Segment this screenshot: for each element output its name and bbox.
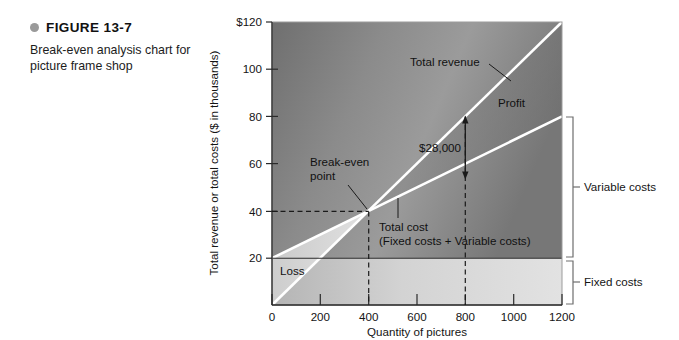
breakeven-label-line-2: point xyxy=(310,169,336,182)
y-tick-label-120: $120 xyxy=(236,15,262,28)
x-tick-label-600: 600 xyxy=(407,310,426,323)
x-tick-label-1200: 1200 xyxy=(549,310,575,323)
x-tick-label-400: 400 xyxy=(359,310,378,323)
fixed-costs-label: Fixed costs xyxy=(584,275,643,288)
y-tick-label-100: 100 xyxy=(243,62,262,75)
x-tick-label-200: 200 xyxy=(311,310,330,323)
total-cost-label-line-2: (Fixed costs + Variable costs) xyxy=(379,234,531,247)
total-cost-label-line-1: Total cost xyxy=(379,220,429,233)
break-even-chart: $120 100 80 60 40 20 0 200 400 600 800 1… xyxy=(0,0,679,340)
variable-costs-label: Variable costs xyxy=(584,180,656,193)
y-tick-label-80: 80 xyxy=(249,110,262,123)
chart-canvas: $120 100 80 60 40 20 0 200 400 600 800 1… xyxy=(0,0,679,340)
y-axis-title: Total revenue or total costs ($ in thous… xyxy=(207,50,220,275)
loss-label: Loss xyxy=(280,264,305,277)
profit-measure-label: $28,000 xyxy=(419,141,461,154)
breakeven-label-line-1: Break-even xyxy=(310,155,369,168)
y-tick-label-60: 60 xyxy=(249,157,262,170)
variable-costs-bracket xyxy=(566,117,580,257)
variable-costs-bracket-shape xyxy=(566,117,573,257)
y-tick-label-20: 20 xyxy=(249,251,262,264)
fixed-costs-bracket xyxy=(566,261,580,304)
x-tick-label-800: 800 xyxy=(456,310,475,323)
x-tick-label-0: 0 xyxy=(269,310,275,323)
x-tick-label-1000: 1000 xyxy=(501,310,527,323)
total-revenue-label: Total revenue xyxy=(410,55,480,68)
x-axis-title: Quantity of pictures xyxy=(367,325,467,338)
y-tick-label-40: 40 xyxy=(249,205,262,218)
fixed-costs-bracket-shape xyxy=(566,261,573,304)
profit-label: Profit xyxy=(498,96,526,109)
